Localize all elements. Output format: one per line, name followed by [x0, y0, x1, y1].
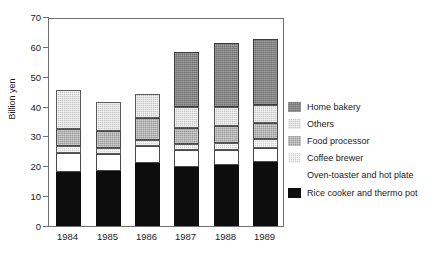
legend-label: Oven-toaster and hot plate: [307, 170, 414, 180]
y-tick-mark: [43, 47, 49, 48]
legend-label: Food processor: [307, 136, 370, 146]
y-tick-label: 70: [30, 12, 41, 23]
y-tick-mark: [43, 136, 49, 137]
bar-segment[interactable]: [56, 129, 81, 146]
legend-item[interactable]: Others: [288, 115, 434, 132]
legend-swatch-icon: [288, 188, 301, 198]
bar-segment[interactable]: [174, 107, 199, 127]
legend-swatch-icon: [288, 153, 301, 163]
legend-swatch-icon: [288, 119, 301, 129]
bar-segment[interactable]: [214, 43, 239, 106]
bar-segment[interactable]: [214, 126, 239, 144]
bar-segment[interactable]: [214, 165, 239, 227]
bar-segment[interactable]: [135, 94, 160, 118]
bar-segment[interactable]: [135, 140, 160, 146]
legend-item[interactable]: Oven-toaster and hot plate: [288, 167, 434, 184]
bar-segment[interactable]: [56, 153, 81, 172]
bar-segment[interactable]: [174, 167, 199, 226]
bar-segment[interactable]: [96, 148, 121, 154]
y-tick-label: 50: [30, 71, 41, 82]
chart-legend: Home bakeryOthersFood processorCoffee br…: [288, 98, 434, 201]
y-tick-mark: [43, 226, 49, 227]
bar-segment[interactable]: [174, 128, 199, 144]
y-tick-label: 0: [36, 221, 41, 232]
y-axis-title: Billion yen: [7, 64, 17, 134]
bar-segment[interactable]: [96, 102, 121, 131]
legend-label: Home bakery: [307, 102, 361, 112]
legend-label: Coffee brewer: [307, 153, 363, 163]
bar-segment[interactable]: [56, 90, 81, 128]
bar-segment[interactable]: [174, 144, 199, 150]
y-tick-mark: [43, 196, 49, 197]
bar-segment[interactable]: [96, 154, 121, 171]
legend-swatch-icon: [288, 102, 301, 112]
x-axis-label: 1989: [235, 231, 295, 242]
bar-segment[interactable]: [96, 171, 121, 226]
bar-segment[interactable]: [253, 139, 278, 148]
bar-segment[interactable]: [253, 39, 278, 105]
legend-item[interactable]: Home bakery: [288, 98, 434, 115]
y-tick-mark: [43, 107, 49, 108]
legend-label: Rice cooker and thermo pot: [307, 188, 418, 198]
y-tick-mark: [43, 166, 49, 167]
bar-segment[interactable]: [135, 146, 160, 163]
stacked-bar-chart: Billion yen 010203040506070 198419851986…: [0, 0, 434, 256]
y-tick-label: 40: [30, 101, 41, 112]
bar-segment[interactable]: [214, 107, 239, 126]
bar-segment[interactable]: [214, 143, 239, 150]
bar-segment[interactable]: [56, 146, 81, 153]
legend-item[interactable]: Coffee brewer: [288, 150, 434, 167]
legend-item[interactable]: Food processor: [288, 132, 434, 149]
bar-segment[interactable]: [253, 123, 278, 139]
legend-swatch-icon: [288, 136, 301, 146]
y-tick-mark: [43, 77, 49, 78]
y-tick-label: 10: [30, 191, 41, 202]
plot-area: 010203040506070: [48, 18, 284, 227]
y-tick-label: 60: [30, 41, 41, 52]
bar-segment[interactable]: [253, 162, 278, 226]
legend-label: Others: [307, 119, 334, 129]
bar-segment[interactable]: [135, 118, 160, 139]
legend-item[interactable]: Rice cooker and thermo pot: [288, 184, 434, 201]
bar-segment[interactable]: [214, 150, 239, 164]
y-tick-label: 20: [30, 161, 41, 172]
y-tick-label: 30: [30, 131, 41, 142]
bar-segment[interactable]: [174, 52, 199, 108]
bar-segment[interactable]: [174, 150, 199, 167]
legend-swatch-icon: [288, 170, 301, 180]
bar-segment[interactable]: [135, 163, 160, 226]
bar-segment[interactable]: [253, 105, 278, 124]
bar-segment[interactable]: [96, 131, 121, 149]
bar-segment[interactable]: [253, 148, 278, 161]
bar-segment[interactable]: [56, 172, 81, 226]
y-tick-mark: [43, 17, 49, 18]
